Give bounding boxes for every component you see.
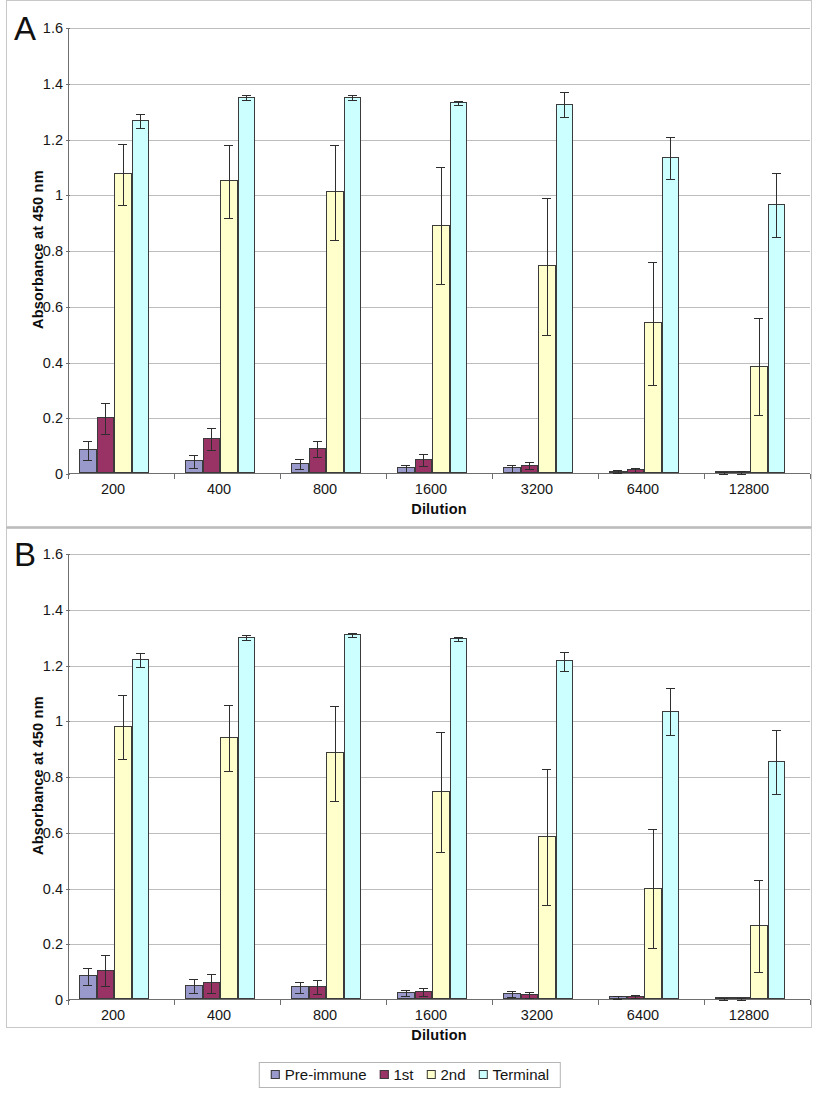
error-bar [564,652,565,672]
error-bar-cap [507,472,516,473]
error-bar-cap [666,735,675,736]
x-axis-tick [174,474,175,479]
panel-b-x-axis-title: Dilution [68,1027,810,1043]
error-bar-cap [525,462,534,463]
panel-a-plot-area: 00.20.40.60.811.21.41.6 [68,28,810,474]
legend-swatch-icon [379,1070,388,1079]
x-axis-tick-label: 1600 [415,1007,447,1023]
bar-terminal [450,102,468,473]
x-axis-tick-label: 400 [207,481,231,497]
legend-item-2nd: 2nd [426,1067,465,1082]
y-axis-tick-label: 0.2 [43,936,63,952]
bar-group [599,28,705,473]
error-bar-cap [101,955,110,956]
error-bar-cap [560,671,569,672]
error-bar-cap [83,985,92,986]
error-bar-cap [560,652,569,653]
error-bar-cap [242,95,251,96]
x-axis-tick-label: 12800 [729,1007,769,1023]
error-bar-cap [436,284,445,285]
error-bar-cap [542,769,551,770]
error-bar [211,428,212,450]
error-bar-cap [242,640,251,641]
error-bar [406,465,407,472]
chart-legend: Pre-immune1st2ndTerminal [259,1062,561,1088]
error-bar [211,974,212,994]
x-axis-tick-label: 6400 [627,1007,659,1023]
error-bar-cap [454,641,463,642]
error-bar [529,462,530,469]
legend-label: Pre-immune [285,1067,367,1082]
error-bar-cap [648,262,657,263]
error-bar-cap [207,974,216,975]
error-bar-cap [83,441,92,442]
error-bar [547,769,548,906]
error-bar-cap [207,993,216,994]
error-bar-cap [419,466,428,467]
legend-swatch-icon [271,1070,280,1079]
error-bar-cap [666,179,675,180]
error-bar-cap [136,128,145,129]
error-bar-cap [118,759,127,760]
error-bar-cap [224,218,233,219]
error-bar-cap [295,459,304,460]
error-bar-cap [330,706,339,707]
error-bar-cap [295,993,304,994]
error-bar-cap [648,829,657,830]
error-bar-cap [136,667,145,668]
error-bar-cap [313,457,322,458]
x-axis-tick [386,1000,387,1005]
x-axis-tick-label: 3200 [521,1007,553,1023]
error-bar-cap [207,450,216,451]
panel-a-letter: A [14,12,36,45]
error-bar [512,465,513,472]
y-axis-tick-label: 0 [55,466,63,482]
error-bar [88,441,89,461]
error-bar-cap [83,460,92,461]
error-bar-cap [560,117,569,118]
error-bar [564,92,565,117]
error-bar-cap [454,105,463,106]
error-bar-cap [454,637,463,638]
x-axis-tick [810,474,811,479]
error-bar-cap [136,114,145,115]
error-bar-cap [189,979,198,980]
error-bar [229,145,230,217]
error-bar-cap [207,428,216,429]
error-bar-cap [118,144,127,145]
error-bar-cap [560,92,569,93]
error-bar-cap [648,385,657,386]
error-bar-cap [330,801,339,802]
x-axis-tick [68,474,69,479]
y-axis-tick-label: 1.6 [43,546,63,562]
error-bar [776,173,777,237]
panel-b-plot-area: 00.20.40.60.811.21.41.6 [68,554,810,1000]
bar-terminal [132,659,150,999]
error-bar-cap [436,732,445,733]
error-bar [229,705,230,772]
y-axis-tick-label: 1.2 [43,658,63,674]
x-axis-tick [704,474,705,479]
x-axis-tick-label: 800 [313,1007,337,1023]
error-bar [759,318,760,416]
error-bar-cap [348,100,357,101]
error-bar [194,979,195,993]
bar-2nd [114,726,132,999]
error-bar-cap [348,95,357,96]
error-bar-cap [118,205,127,206]
error-bar-cap [754,415,763,416]
x-axis-tick [280,1000,281,1005]
error-bar-cap [613,996,622,997]
panel-b-letter: B [14,538,36,571]
error-bar [194,455,195,467]
bar-terminal [556,660,574,999]
legend-item-1st: 1st [379,1067,413,1082]
bar-terminal [344,634,362,999]
error-bar-cap [754,880,763,881]
x-axis-tick [386,474,387,479]
error-bar-cap [224,145,233,146]
error-bar-cap [401,996,410,997]
y-axis-tick-label: 1.2 [43,132,63,148]
error-bar-cap [631,995,640,996]
error-bar-cap [542,198,551,199]
